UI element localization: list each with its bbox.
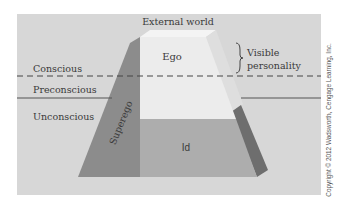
ego-label: Ego bbox=[162, 51, 182, 62]
block-top-cap bbox=[140, 30, 216, 37]
copyright-credit: Copyright © 2012 Wadsworth, Cengage Lear… bbox=[325, 43, 333, 197]
conscious-label: Conscious bbox=[33, 63, 82, 74]
visible-personality-label-line2: personality bbox=[247, 60, 302, 71]
visible-personality-label-line1: Visible bbox=[246, 47, 280, 58]
id-label: Id bbox=[182, 142, 190, 153]
preconscious-label: Preconscious bbox=[33, 84, 97, 95]
personality-structure-diagram: External world Ego Id Superego Conscious… bbox=[0, 0, 349, 202]
external-world-label: External world bbox=[142, 16, 214, 27]
unconscious-label: Unconscious bbox=[33, 111, 94, 122]
